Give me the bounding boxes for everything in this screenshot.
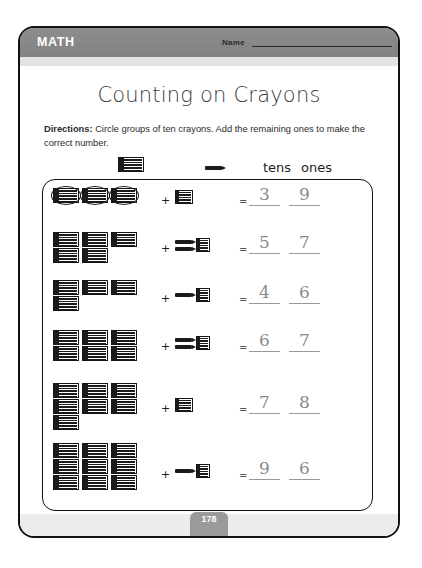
partial-crayon-block-icon [196, 288, 210, 302]
ones-answer-blank[interactable]: 8 [289, 392, 320, 414]
ones-group [175, 398, 193, 412]
circled-group-mark [80, 186, 110, 205]
crayon-bundle-icon [111, 280, 137, 295]
ones-answer-blank[interactable]: 9 [289, 184, 320, 206]
bundle-line [53, 415, 208, 430]
answer-group: 57 [249, 232, 320, 254]
single-crayon-icon [175, 293, 192, 297]
bundle-line [53, 443, 208, 458]
equals-sign: = [239, 342, 247, 353]
problems-box: +=39+=57+=46+=67+=78+=96 [42, 179, 373, 511]
ones-answer-blank[interactable]: 6 [289, 458, 320, 480]
tens-answer-blank[interactable]: 4 [249, 282, 280, 304]
header-underband [20, 57, 398, 66]
single-crayon-icon [205, 166, 222, 170]
crayon-bundle-icon [82, 399, 108, 414]
crayon-bundle-icon [82, 232, 108, 247]
crayon-bundle-icon [82, 330, 108, 345]
loose-crayons [175, 293, 192, 297]
single-crayon-icon [175, 240, 192, 244]
single-crayon-icon [175, 338, 192, 342]
crayon-bundle-icon [82, 346, 108, 361]
crayon-bundle-icon [53, 232, 79, 247]
crayon-bundle-icon [53, 399, 79, 414]
name-field-line[interactable] [252, 46, 392, 47]
partial-crayon-block-icon [175, 190, 193, 204]
plus-sign: + [161, 292, 170, 305]
plus-sign: + [161, 194, 170, 207]
crayon-bundle-icon [111, 346, 137, 361]
crayon-bundle-icon [111, 330, 137, 345]
crayon-bundle-icon [53, 296, 79, 311]
crayon-bundle-icon [53, 346, 79, 361]
crayon-bundle-icon [53, 459, 79, 474]
tens-answer-blank[interactable]: 9 [249, 458, 280, 480]
crayon-bundle-icon [82, 280, 108, 295]
crayon-bundle-icon [111, 443, 137, 458]
partial-crayon-block-icon [196, 336, 210, 350]
ones-group [175, 288, 210, 302]
answer-group: 78 [249, 392, 320, 414]
crayon-bundle-icon [53, 443, 79, 458]
tens-answer-blank[interactable]: 7 [249, 392, 280, 414]
crayon-bundle-icon [82, 459, 108, 474]
loose-crayons [175, 469, 192, 473]
ones-group [175, 336, 210, 350]
tens-answer-blank[interactable]: 3 [249, 184, 280, 206]
page-number: 178 [190, 512, 228, 538]
ones-column-header: ones [301, 160, 332, 175]
crayon-bundle-icon [111, 383, 137, 398]
partial-crayon-block-icon [175, 398, 193, 412]
answer-group: 96 [249, 458, 320, 480]
plus-sign: + [161, 340, 170, 353]
worksheet-page: MATH Name Counting on Crayons Directions… [18, 26, 400, 538]
ones-group [175, 238, 210, 252]
tens-answer-blank[interactable]: 6 [249, 330, 280, 352]
plus-sign: + [161, 402, 170, 415]
crayon-bundle-icon [111, 475, 137, 490]
equals-sign: = [239, 294, 247, 305]
crayon-bundle-icon [111, 232, 137, 247]
crayon-bundle-icon [82, 475, 108, 490]
ones-answer-blank[interactable]: 6 [289, 282, 320, 304]
key-row: tens ones [20, 157, 398, 179]
partial-crayon-block-icon [196, 464, 210, 478]
crayon-bundle-icon [111, 459, 137, 474]
plus-sign: + [161, 468, 170, 481]
single-crayon-icon [175, 469, 192, 473]
circled-group-mark [109, 186, 139, 205]
equals-sign: = [239, 244, 247, 255]
single-crayon-icon [175, 345, 192, 349]
partial-crayon-block-icon [196, 238, 210, 252]
ones-group [175, 190, 193, 204]
equals-sign: = [239, 470, 247, 481]
ones-answer-blank[interactable]: 7 [289, 232, 320, 254]
answer-group: 39 [249, 184, 320, 206]
crayon-bundle-icon [82, 248, 108, 263]
name-label: Name [222, 38, 245, 47]
crayon-bundle-icon [53, 248, 79, 263]
loose-crayons [175, 240, 192, 251]
subject-label: MATH [37, 35, 75, 49]
loose-crayons [175, 338, 192, 349]
page-title: Counting on Crayons [20, 83, 398, 107]
equals-sign: = [239, 196, 247, 207]
circled-group-mark [51, 186, 81, 205]
directions-label: Directions: [44, 124, 93, 134]
ones-answer-blank[interactable]: 7 [289, 330, 320, 352]
crayon-bundle-icon [53, 415, 79, 430]
crayon-bundle-icon [82, 443, 108, 458]
single-crayon-icon [175, 247, 192, 251]
directions: Directions: Circle groups of ten crayons… [44, 122, 374, 150]
crayon-bundle-icon [82, 383, 108, 398]
tens-column-header: tens [263, 160, 291, 175]
crayon-bundle-icon [53, 383, 79, 398]
crayon-bundle-icon [53, 280, 79, 295]
bundle-line [53, 383, 208, 398]
plus-sign: + [161, 242, 170, 255]
crayon-bundle-icon [53, 330, 79, 345]
tens-answer-blank[interactable]: 5 [249, 232, 280, 254]
ones-group [175, 464, 210, 478]
directions-text: Circle groups of ten crayons. Add the re… [44, 124, 365, 148]
answer-group: 46 [249, 282, 320, 304]
